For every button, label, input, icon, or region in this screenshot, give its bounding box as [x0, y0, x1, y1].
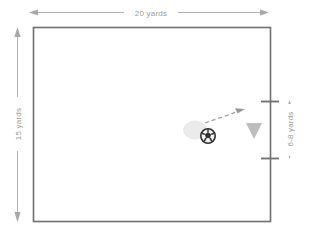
soccer-drill-diagram: 20 yards 15 yards 6-8 yards [0, 0, 309, 233]
goal-width-dimension: 6-8 yards [283, 100, 297, 159]
width-dimension-label: 20 yards [135, 9, 167, 18]
width-dimension: 20 yards [29, 6, 269, 20]
height-dimension-arrowhead-top [14, 27, 20, 37]
diagram-canvas: 20 yards 15 yards 6-8 yards [0, 0, 309, 233]
soccer-ball [201, 129, 215, 143]
goal-width-dimension-label: 6-8 yards [286, 111, 295, 146]
height-dimension: 15 yards [11, 27, 25, 222]
height-dimension-arrowhead-bottom [14, 212, 20, 222]
pitch-rectangle [34, 28, 271, 222]
width-dimension-arrowhead-right [260, 9, 269, 15]
width-dimension-arrowhead-left [29, 9, 38, 15]
height-dimension-label: 15 yards [14, 108, 23, 140]
